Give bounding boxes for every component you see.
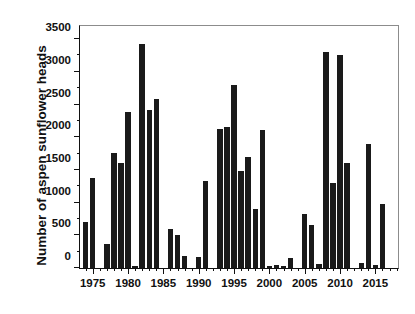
x-axis-tick-minor: [206, 268, 207, 271]
x-axis-tick-minor: [361, 268, 362, 271]
x-axis-tick-minor: [368, 268, 369, 271]
x-axis-tick-label: 1990: [186, 277, 212, 289]
x-axis-tick-minor: [390, 268, 391, 271]
x-axis-tick-label: 2005: [292, 277, 318, 289]
x-axis-tick-minor: [149, 268, 150, 271]
x-axis-tick-minor: [382, 268, 383, 271]
bar: [288, 258, 293, 268]
x-axis-tick-major: [128, 268, 129, 274]
x-axis-tick-label: 2000: [257, 277, 283, 289]
x-axis-tick-minor: [170, 268, 171, 271]
x-axis-tick-major: [199, 268, 200, 274]
bar: [344, 163, 349, 268]
bar: [154, 99, 159, 268]
x-axis-tick-minor: [326, 268, 327, 271]
y-axis-tick-major: [74, 169, 80, 170]
x-axis-tick-minor: [185, 268, 186, 271]
y-axis-tick-major: [74, 136, 80, 137]
x-axis-tick-minor: [86, 268, 87, 271]
x-axis-tick-minor: [284, 268, 285, 271]
x-axis-tick-minor: [312, 268, 313, 271]
y-axis-tick-minor: [77, 185, 81, 186]
y-axis-tick-major: [74, 71, 80, 72]
x-axis-tick-minor: [291, 268, 292, 271]
x-axis-tick-minor: [114, 268, 115, 271]
bar: [337, 55, 342, 268]
bar: [217, 129, 222, 268]
x-axis-tick-minor: [354, 268, 355, 271]
bar: [196, 257, 201, 268]
x-axis-tick-minor: [255, 268, 256, 271]
y-axis-tick-major: [74, 267, 80, 268]
y-axis-tick-label: 2000: [45, 119, 71, 131]
x-axis-tick-minor: [192, 268, 193, 271]
x-axis-tick-minor: [178, 268, 179, 271]
x-axis-tick-label: 2015: [363, 277, 389, 289]
y-axis-tick-label: 500: [52, 217, 71, 229]
x-axis-tick-minor: [397, 268, 398, 271]
bar: [245, 157, 250, 268]
y-axis-tick-minor: [77, 153, 81, 154]
y-axis-tick-label: 3500: [45, 21, 71, 33]
y-axis-tick-label: 3000: [45, 54, 71, 66]
x-axis-tick-major: [234, 268, 235, 274]
bar: [118, 163, 123, 268]
y-axis-tick-label: 1500: [45, 152, 71, 164]
x-axis-tick-label: 2010: [327, 277, 353, 289]
bar: [224, 127, 229, 268]
bar: [309, 225, 314, 268]
x-axis-tick-label: 1995: [221, 277, 247, 289]
x-axis-tick-major: [305, 268, 306, 274]
x-axis-tick-minor: [241, 268, 242, 271]
bar: [168, 229, 173, 268]
x-axis-tick-minor: [333, 268, 334, 271]
bar: [111, 153, 116, 268]
bar: [253, 209, 258, 268]
x-axis-tick-major: [340, 268, 341, 274]
x-axis-tick-minor: [248, 268, 249, 271]
bar: [302, 214, 307, 268]
y-axis-tick-label: 0: [65, 250, 71, 262]
x-axis-tick-minor: [121, 268, 122, 271]
bar: [231, 85, 236, 268]
x-axis-tick-minor: [156, 268, 157, 271]
bar: [90, 178, 95, 268]
bar: [238, 171, 243, 268]
x-axis-tick-minor: [213, 268, 214, 271]
x-axis-tick-minor: [100, 268, 101, 271]
y-axis-tick-label: 1000: [45, 185, 71, 197]
bar: [125, 112, 130, 268]
bar: [330, 183, 335, 268]
plot-area: 0500100015002000250030003500197519801985…: [79, 25, 399, 269]
x-axis-tick-label: 1985: [151, 277, 177, 289]
x-axis-tick-minor: [142, 268, 143, 271]
bar: [83, 222, 88, 268]
x-axis-tick-label: 1975: [80, 277, 106, 289]
y-axis-tick-major: [74, 104, 80, 105]
y-axis-tick-major: [74, 234, 80, 235]
bar: [175, 235, 180, 268]
y-axis-tick-minor: [77, 87, 81, 88]
x-axis-tick-major: [269, 268, 270, 274]
bar: [380, 204, 385, 268]
x-axis-tick-minor: [135, 268, 136, 271]
y-axis-tick-minor: [77, 120, 81, 121]
bar: [260, 130, 265, 268]
bar: [104, 244, 109, 268]
bar-chart-figure: Number of aspen sunflower heads 05001000…: [0, 0, 415, 314]
y-axis-tick-major: [74, 38, 80, 39]
bars-container: [80, 26, 398, 268]
x-axis-tick-minor: [107, 268, 108, 271]
x-axis-tick-minor: [220, 268, 221, 271]
x-axis-tick-major: [93, 268, 94, 274]
y-axis-tick-minor: [77, 218, 81, 219]
y-axis-tick-minor: [77, 54, 81, 55]
x-axis-tick-minor: [276, 268, 277, 271]
bar: [147, 110, 152, 268]
bar: [182, 256, 187, 268]
x-axis-tick-major: [163, 268, 164, 274]
y-axis-tick-major: [74, 202, 80, 203]
bar: [366, 144, 371, 268]
x-axis-tick-minor: [298, 268, 299, 271]
x-axis-tick-major: [375, 268, 376, 274]
